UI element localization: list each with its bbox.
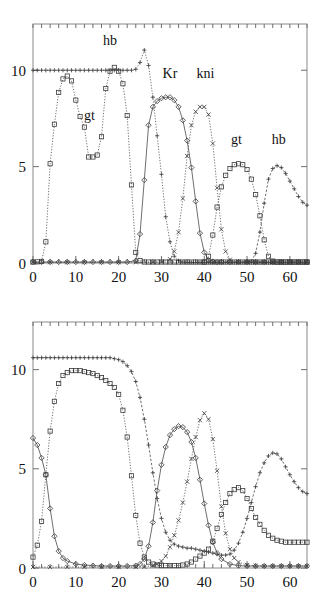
marker-plus [279,165,283,169]
y-tick-label: 0 [19,561,27,577]
marker-cross [164,554,168,558]
marker-plus [172,542,176,546]
marker-cross [176,230,180,234]
marker-plus [44,68,48,72]
marker-plus [95,68,99,72]
marker-plus [125,68,129,72]
x-tick-label: 60 [282,574,297,590]
marker-plus [82,68,86,72]
marker-plus [151,471,155,475]
marker-cross [215,186,219,190]
marker-plus [283,465,287,469]
marker-plus [224,553,228,557]
y-tick-label: 0 [19,256,27,272]
marker-plus [189,546,193,550]
marker-cross [181,196,185,200]
series-line-kni [33,413,307,567]
marker-plus [117,358,121,362]
marker-plus [104,356,108,360]
series-line-hb [33,358,307,555]
marker-plus [176,544,180,548]
curve-label-kni: kni [197,66,215,81]
curve-label-Kr: Kr [163,66,178,81]
marker-plus [288,473,292,477]
plot-frame [33,24,307,263]
series-line-gt-left [33,67,307,262]
marker-plus [258,471,262,475]
marker-plus [35,356,39,360]
marker-plus [65,68,69,72]
marker-cross [194,110,198,114]
marker-plus [57,356,61,360]
x-tick-label: 30 [154,269,169,285]
marker-plus [241,530,245,534]
series-line-hb [33,50,307,262]
curve-label-hb: hb [103,33,117,48]
series-hb [31,356,309,558]
marker-plus [296,486,300,490]
y-tick-label: 5 [19,461,27,477]
marker-cross [224,249,228,253]
marker-cross [185,480,189,484]
marker-plus [61,68,65,72]
x-tick-label: 40 [197,269,212,285]
marker-plus [164,530,168,534]
marker-cross [219,227,223,231]
marker-square [87,155,91,159]
marker-plus [91,356,95,360]
x-tick-label: 20 [111,574,126,590]
axis-ticks [33,24,307,263]
marker-plus [288,179,292,183]
axis-tick-labels: 01020304050600510 [11,63,297,285]
marker-plus [262,461,266,465]
marker-cross [206,417,210,421]
marker-plus [159,516,163,520]
series-gt-right [202,162,309,265]
marker-plus [146,443,150,447]
chart-svg-bottom: 01020304050600510 [0,300,326,610]
x-tick-label: 50 [240,269,255,285]
marker-plus [262,201,266,205]
marker-plus [78,356,82,360]
marker-square [112,385,116,389]
marker-plus [245,516,249,520]
marker-cross [168,545,172,549]
marker-cross [228,547,232,551]
marker-plus [151,95,155,99]
marker-plus [78,68,82,72]
marker-square [254,515,258,519]
marker-plus [134,379,138,383]
marker-square [146,560,150,564]
y-tick-label: 10 [11,63,26,79]
x-tick-label: 20 [111,269,126,285]
series-gt [31,369,309,568]
marker-plus [292,187,296,191]
x-tick-label: 50 [240,574,255,590]
marker-plus [104,68,108,72]
marker-square [91,155,95,159]
x-tick-label: 0 [29,574,37,590]
marker-plus [168,240,172,244]
marker-plus [236,541,240,545]
x-tick-label: 0 [29,269,37,285]
marker-plus [31,68,35,72]
marker-plus [39,356,43,360]
series-hb-right [245,164,309,265]
marker-square [117,392,121,396]
marker-plus [181,545,185,549]
marker-square [65,74,69,78]
x-tick-label: 10 [68,269,83,285]
marker-square [245,167,249,171]
marker-cross [176,518,180,522]
marker-plus [121,68,125,72]
marker-plus [129,68,133,72]
marker-plus [52,356,56,360]
axis-tick-labels: 01020304050600510 [11,362,297,590]
series-Kr [30,95,309,265]
series-line-Kr [33,426,307,566]
x-tick-label: 60 [282,269,297,285]
series-line-hb-right [247,166,307,262]
marker-plus [159,172,163,176]
marker-plus [296,194,300,198]
chart-panel-bottom: 01020304050600510 [0,300,326,610]
